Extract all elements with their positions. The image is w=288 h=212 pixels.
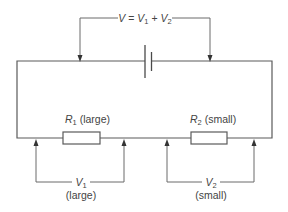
arrow-up-icon	[122, 139, 127, 146]
arrow-up-icon	[165, 139, 170, 146]
r2-label: R2 (small)	[190, 113, 236, 127]
arrow-up-icon	[252, 139, 257, 146]
resistor-r1	[63, 132, 100, 144]
arrow-up-icon	[34, 139, 39, 146]
wire-right	[152, 61, 272, 138]
v1-note: (large)	[66, 189, 96, 201]
v2-note: (small)	[195, 189, 227, 201]
circuit-diagram: R1 (large) R2 (small) V = V1 + V2 V1 (la…	[0, 0, 288, 212]
v2-label: V2	[205, 176, 216, 190]
wire-left	[17, 61, 145, 138]
v1-label: V1	[75, 176, 86, 190]
r1-label: R1 (large)	[65, 113, 110, 127]
resistor-r2	[191, 132, 227, 144]
total-voltage-label: V = V1 + V2	[118, 12, 171, 26]
battery-icon	[145, 45, 152, 78]
